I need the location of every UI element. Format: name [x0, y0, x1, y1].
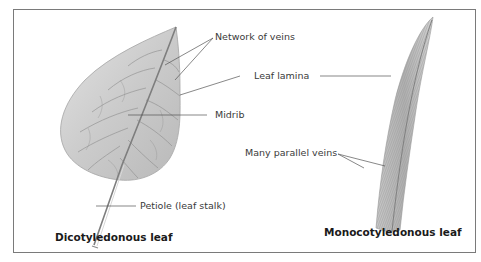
monocot-leaf [376, 17, 433, 232]
caption-monocot: Monocotyledonous leaf [324, 227, 462, 238]
label-leaf-lamina: Leaf lamina [254, 71, 309, 81]
label-midrib: Midrib [215, 110, 244, 120]
label-petiole: Petiole (leaf stalk) [140, 201, 226, 211]
label-network-of-veins: Network of veins [215, 32, 295, 42]
dicot-leaf [61, 27, 181, 248]
label-parallel-veins: Many parallel veins [245, 148, 337, 158]
caption-dicot: Dicotyledonous leaf [55, 232, 173, 243]
